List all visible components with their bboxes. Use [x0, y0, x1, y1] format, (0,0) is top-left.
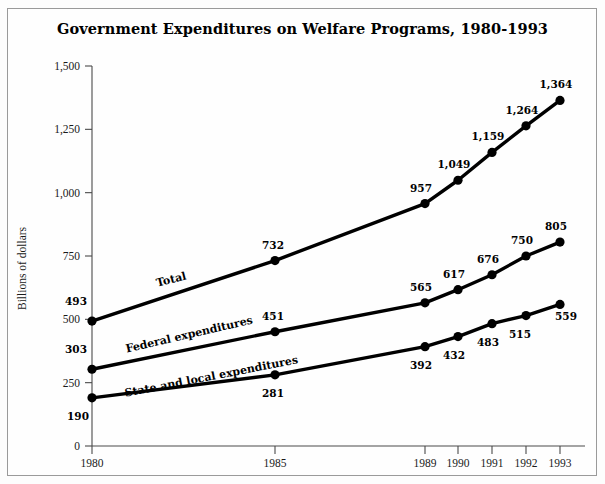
- y-tick-label: 1,000: [54, 187, 80, 200]
- data-point: [270, 256, 279, 265]
- data-point-label: 750: [511, 234, 533, 246]
- data-point: [420, 298, 429, 307]
- data-point: [453, 176, 462, 185]
- data-point-label: 1,364: [540, 78, 573, 90]
- data-point: [453, 285, 462, 294]
- series-name-label: Total: [155, 270, 188, 290]
- x-tick-label: 1992: [515, 457, 538, 469]
- data-point: [453, 332, 462, 341]
- data-point: [521, 311, 530, 320]
- y-tick-label: 1,250: [54, 123, 80, 136]
- data-point-label: 303: [65, 343, 87, 355]
- data-point: [420, 342, 429, 351]
- data-point-label: 617: [443, 268, 465, 280]
- data-point-label: 559: [555, 310, 577, 322]
- x-tick-label: 1980: [81, 457, 104, 469]
- data-point-label: 676: [477, 253, 499, 265]
- data-point: [420, 199, 429, 208]
- data-point: [487, 270, 496, 279]
- x-tick-label: 1990: [447, 457, 470, 469]
- data-point: [270, 370, 279, 379]
- data-point: [87, 393, 96, 402]
- x-axis: 1980198519891990199119921993: [81, 446, 586, 469]
- x-tick-label: 1985: [264, 457, 287, 469]
- y-tick-label: 1,500: [54, 60, 80, 73]
- data-point: [555, 96, 564, 105]
- data-point-label: 451: [262, 310, 284, 322]
- data-point: [555, 237, 564, 246]
- data-point: [270, 327, 279, 336]
- data-point-label: 432: [443, 349, 465, 361]
- data-point: [87, 365, 96, 374]
- data-point: [521, 251, 530, 260]
- data-point-label: 565: [410, 281, 432, 293]
- data-point-label: 483: [477, 336, 499, 348]
- y-tick-label: 0: [74, 440, 80, 452]
- data-point-label: 732: [262, 239, 284, 251]
- line-chart: 02505007501,0001,2501,500 19801985198919…: [0, 0, 605, 484]
- data-point: [521, 121, 530, 130]
- data-point: [487, 148, 496, 157]
- y-tick-label: 750: [63, 250, 81, 262]
- chart-page: Government Expenditures on Welfare Progr…: [0, 0, 605, 484]
- data-point-label: 1,159: [472, 130, 505, 142]
- x-tick-label: 1993: [549, 457, 572, 469]
- x-tick-label: 1991: [481, 457, 504, 469]
- y-axis-title: Billions of dollars: [16, 226, 28, 310]
- data-point: [87, 317, 96, 326]
- value-labels-layer: 4937329571,0491,1591,2641,36430345156561…: [65, 78, 577, 421]
- y-axis: 02505007501,0001,2501,500: [54, 60, 92, 452]
- data-point-label: 805: [545, 220, 567, 232]
- data-point-label: 1,049: [438, 158, 471, 170]
- data-point-label: 392: [410, 359, 432, 371]
- data-point-label: 515: [509, 328, 531, 340]
- data-point-label: 281: [262, 387, 284, 399]
- data-point-label: 493: [65, 295, 87, 307]
- data-point-label: 190: [67, 410, 89, 422]
- x-tick-label: 1989: [414, 457, 437, 469]
- data-point: [487, 319, 496, 328]
- y-tick-label: 250: [63, 377, 81, 389]
- y-tick-label: 500: [63, 313, 81, 325]
- data-point-label: 957: [410, 182, 432, 194]
- data-point-label: 1,264: [506, 104, 539, 116]
- data-point: [555, 300, 564, 309]
